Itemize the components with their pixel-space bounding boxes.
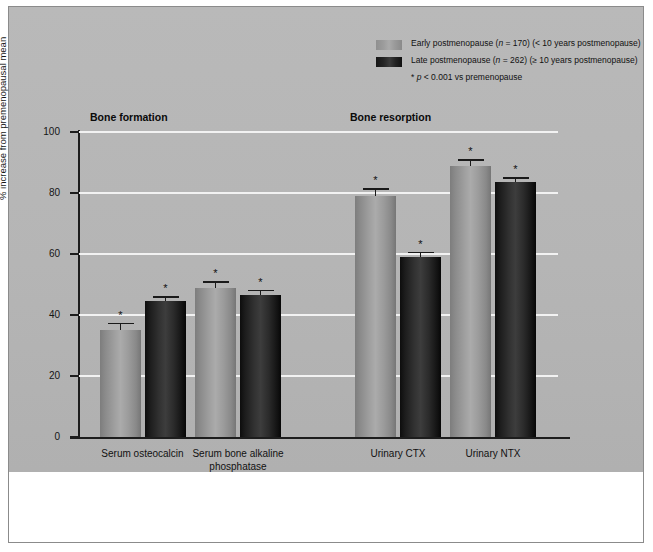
y-tick-100	[70, 131, 78, 132]
significance-marker-early-4: *	[461, 146, 481, 157]
y-tick-label-100: 100	[30, 126, 60, 137]
y-tick-20	[70, 375, 78, 376]
y-tick-label-60: 60	[30, 248, 60, 259]
legend-label-late-pre: Late postmenopause (	[411, 55, 496, 65]
category-label-2-line-2: phosphatase	[158, 461, 318, 474]
chart-legend: Early postmenopause (n = 170) (< 10 year…	[376, 38, 646, 82]
significance-marker-early-3: *	[366, 175, 386, 186]
bar-late-2	[240, 295, 281, 437]
y-tick-80	[70, 192, 78, 193]
bar-early-4	[450, 166, 491, 437]
bar-late-3	[400, 257, 441, 437]
group-heading-bone-formation: Bone formation	[90, 111, 168, 123]
error-bar-cap-late-1	[153, 296, 179, 298]
legend-item-early: Early postmenopause (n = 170) (< 10 year…	[376, 38, 646, 50]
figure-root: Early postmenopause (n = 170) (< 10 year…	[0, 0, 653, 552]
error-bar-cap-late-2	[248, 290, 274, 292]
y-tick-40	[70, 314, 78, 315]
significance-marker-late-4: *	[506, 164, 526, 175]
legend-label-late: Late postmenopause (n = 262) (≥ 10 years…	[411, 55, 638, 66]
legend-swatch-late-icon	[376, 57, 402, 67]
error-bar-cap-early-3	[363, 188, 389, 190]
error-bar-cap-late-4	[503, 177, 529, 179]
significance-marker-late-3: *	[411, 239, 431, 250]
legend-label-early-post: = 170) (< 10 years postmenopause)	[503, 38, 641, 48]
y-tick-label-0: 0	[30, 431, 60, 442]
y-tick-0	[70, 436, 78, 437]
error-bar-cap-early-1	[108, 323, 134, 325]
legend-item-late: Late postmenopause (n = 262) (≥ 10 years…	[376, 55, 646, 67]
significance-marker-late-2: *	[251, 277, 271, 288]
category-label-2-line-1: Serum bone alkaline	[158, 448, 318, 461]
plot-area: ********	[78, 132, 558, 437]
y-axis-label: % increase from premenopausal mean	[0, 37, 8, 200]
bar-early-2	[195, 288, 236, 437]
legend-label-late-post: = 262) (≥ 10 years postmenopause)	[500, 55, 637, 65]
error-bar-cap-late-3	[408, 252, 434, 254]
category-label-4: Urinary NTX	[413, 448, 573, 461]
category-label-4-line-1: Urinary NTX	[413, 448, 573, 461]
bar-early-3	[355, 196, 396, 437]
y-tick-label-20: 20	[30, 370, 60, 381]
significance-marker-late-1: *	[156, 283, 176, 294]
y-tick-label-40: 40	[30, 309, 60, 320]
error-bar-cap-early-4	[458, 159, 484, 161]
legend-swatch-early-icon	[376, 40, 402, 50]
y-tick-label-80: 80	[30, 187, 60, 198]
error-bar-cap-early-2	[203, 281, 229, 283]
bar-late-4	[495, 182, 536, 437]
legend-note-post: < 0.001 vs premenopause	[421, 72, 522, 82]
significance-marker-early-1: *	[111, 310, 131, 321]
group-heading-bone-resorption: Bone resorption	[350, 111, 431, 123]
bar-early-1	[100, 330, 141, 437]
bar-late-1	[145, 301, 186, 437]
legend-label-early: Early postmenopause (n = 170) (< 10 year…	[411, 38, 641, 49]
legend-label-early-pre: Early postmenopause (	[411, 38, 498, 48]
category-label-2: Serum bone alkalinephosphatase	[158, 448, 318, 473]
legend-significance-note: * p < 0.001 vs premenopause	[411, 72, 646, 82]
significance-marker-early-2: *	[206, 268, 226, 279]
x-axis-line	[70, 437, 570, 439]
y-tick-60	[70, 253, 78, 254]
